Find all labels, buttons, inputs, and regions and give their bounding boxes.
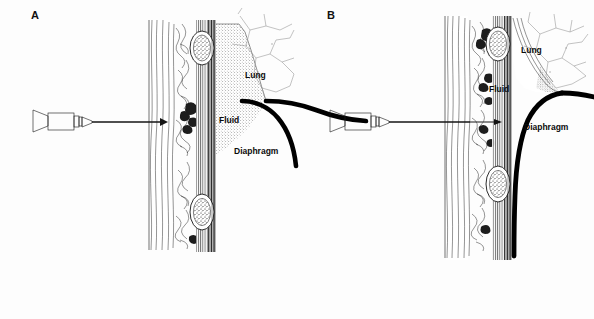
pleural-fluid-b bbox=[513, 18, 562, 93]
rib-upper-b bbox=[486, 27, 510, 61]
label-fluid-b: Fluid bbox=[489, 84, 509, 94]
label-lung-a: Lung bbox=[245, 70, 266, 80]
needle-b bbox=[389, 119, 502, 125]
syringe-a bbox=[33, 110, 92, 132]
label-fluid-a: Fluid bbox=[219, 115, 239, 125]
chest-wall-a bbox=[150, 20, 215, 252]
diaphragm-b bbox=[514, 93, 594, 256]
pleural-fluid-a bbox=[216, 24, 266, 154]
rib-lower-a bbox=[190, 194, 214, 230]
panel-b-group bbox=[330, 12, 594, 260]
subcutaneous-tissue-b bbox=[471, 22, 487, 251]
chest-wall-b bbox=[446, 16, 511, 260]
rib-upper-a bbox=[190, 31, 214, 65]
label-lung-b: Lung bbox=[521, 45, 542, 55]
label-diaphragm-a: Diaphragm bbox=[234, 146, 278, 156]
subcutaneous-tissue-a bbox=[175, 24, 190, 249]
panel-a-group bbox=[33, 8, 366, 252]
figure-canvas: A B bbox=[0, 0, 594, 319]
rib-lower-b bbox=[486, 166, 510, 202]
illustration-svg bbox=[0, 0, 594, 319]
label-diaphragm-b: Diaphragm bbox=[524, 122, 568, 132]
